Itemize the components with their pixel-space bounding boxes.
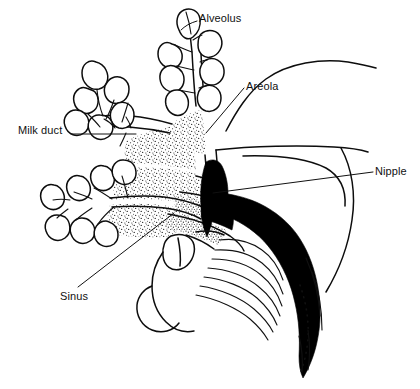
diagram-canvas (0, 0, 420, 389)
anatomical-figure: Alveolus Areola Milk duct Nipple Sinus (0, 0, 420, 389)
label-areola: Areola (246, 80, 278, 92)
label-alveolus: Alveolus (199, 12, 241, 24)
alveoli-cluster-upper (158, 9, 224, 115)
label-milk-duct: Milk duct (18, 124, 62, 136)
label-sinus: Sinus (60, 290, 88, 302)
leader-nipple (213, 172, 373, 193)
tongue (137, 231, 283, 340)
label-nipple: Nipple (375, 165, 407, 177)
